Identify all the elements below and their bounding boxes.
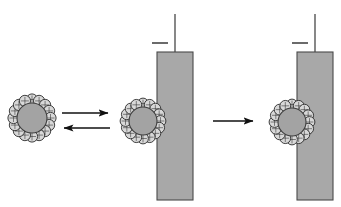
- particle-free: [8, 94, 56, 142]
- diagram-canvas: [0, 0, 341, 207]
- panel-free-particle: [8, 94, 56, 142]
- particle-embedded: [269, 99, 315, 145]
- figure-root: Three-stage diagram. Left: a spherical p…: [0, 0, 341, 207]
- particle-adsorbed: [120, 98, 166, 144]
- particle-adsorbed-core: [129, 107, 157, 135]
- particle-embedded-core: [278, 108, 306, 136]
- particle-free-core: [17, 103, 47, 133]
